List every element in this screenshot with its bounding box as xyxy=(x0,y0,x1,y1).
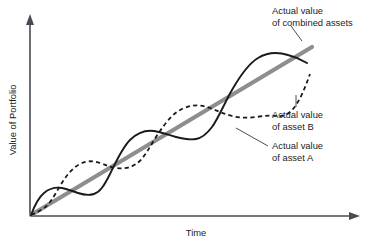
series-asset-a xyxy=(31,53,307,215)
x-axis-label: Time xyxy=(186,227,206,238)
asset-a-label-line2: of asset A xyxy=(272,152,314,163)
series-asset-b xyxy=(31,74,310,215)
asset-b-label-line1: Actual value xyxy=(272,109,323,120)
series-combined-assets xyxy=(31,47,312,215)
leader-line-asset-a xyxy=(236,128,268,146)
combined-assets-label-line2: of combined assets xyxy=(272,17,353,28)
asset-a-label-line1: Actual value xyxy=(272,140,323,151)
asset-b-label-line2: of asset B xyxy=(272,121,314,132)
y-axis-label: Value of Portfolio xyxy=(7,85,18,156)
x-axis xyxy=(30,212,360,220)
combined-assets-label-line1: Actual value xyxy=(272,5,323,16)
annotation-asset-a: Actual value of asset A xyxy=(272,140,323,163)
leader-line-combined-assets xyxy=(291,26,302,41)
y-axis xyxy=(26,14,34,216)
portfolio-diversification-chart: Actual value of combined assets Actual v… xyxy=(0,0,369,243)
annotation-combined-assets: Actual value of combined assets xyxy=(272,5,353,28)
annotation-asset-b: Actual value of asset B xyxy=(272,109,323,132)
